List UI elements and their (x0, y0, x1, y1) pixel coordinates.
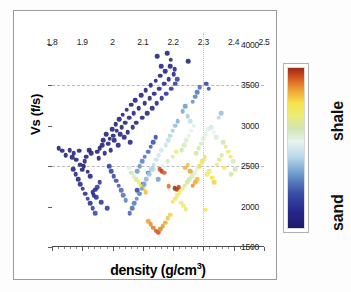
scatter-point (145, 111, 150, 116)
scatter-point (219, 111, 224, 116)
legend-label-shale: shale (329, 101, 347, 141)
scatter-point (214, 162, 219, 167)
scatter-point (89, 151, 94, 156)
scatter-point (82, 159, 87, 164)
scatter-point (207, 86, 212, 91)
scatter-point (217, 157, 222, 162)
scatter-point (127, 211, 132, 216)
scatter-point (152, 91, 157, 96)
scatter-point (108, 148, 113, 153)
scatter-point (101, 138, 106, 143)
scatter-point (144, 88, 149, 93)
x-tick-minor (216, 247, 217, 249)
scatter-point (155, 54, 160, 59)
x-tick-minor (107, 247, 108, 249)
scatter-point (96, 156, 101, 161)
scatter-point (136, 106, 141, 111)
y-tick (48, 166, 52, 167)
scatter-point (195, 177, 200, 182)
x-tick-minor (155, 247, 156, 249)
scatter-point (200, 159, 205, 164)
scatter-point (148, 83, 153, 88)
scatter-point (114, 178, 119, 183)
scatter-point (174, 149, 179, 154)
scatter-point (185, 162, 190, 167)
x-tick-label: 1.9 (77, 37, 88, 47)
scatter-point (202, 154, 207, 159)
x-axis-title: density (g/cm3) (52, 261, 264, 278)
scatter-point (84, 154, 89, 159)
scatter-point (166, 138, 171, 143)
x-tick (234, 247, 235, 251)
scatter-point (156, 177, 161, 182)
y-tick (48, 247, 52, 248)
scatter-point (100, 143, 105, 148)
scatter-point (159, 96, 164, 101)
scatter-point (117, 117, 122, 122)
x-tick-minor (88, 247, 89, 249)
colorbar-legend: shale sand (283, 63, 313, 233)
scatter-point (173, 82, 178, 87)
scatter-point (197, 164, 202, 169)
axes-region: 1.81.922.12.22.32.42.5 15002000250030003… (52, 33, 264, 247)
y-tick (48, 207, 52, 208)
scatter-point (124, 198, 129, 203)
scatter-point (184, 207, 189, 212)
figure-canvas: 1.81.922.12.22.32.42.5 15002000250030003… (0, 0, 351, 292)
scatter-point (207, 169, 212, 174)
x-tick-minor (167, 247, 168, 249)
x-tick (113, 247, 114, 251)
scatter-point (182, 143, 187, 148)
scatter-point (123, 120, 128, 125)
scatter-point (77, 149, 82, 154)
x-tick-minor (149, 247, 150, 249)
scatter-point (229, 172, 234, 177)
scatter-point (98, 180, 103, 185)
scatter-point (159, 64, 164, 69)
scatter-point (140, 115, 145, 120)
scatter-point (168, 133, 173, 138)
x-tick-minor (185, 247, 186, 249)
scatter-point (154, 101, 159, 106)
scatter-point (164, 91, 169, 96)
x-tick (264, 247, 265, 251)
x-tick-minor (64, 247, 65, 249)
scatter-point (186, 59, 191, 64)
scatter-point (153, 135, 158, 140)
scatter-point (196, 146, 201, 151)
scatter-point (72, 151, 77, 156)
scatter-point (214, 135, 219, 140)
scatter-point (88, 174, 93, 179)
scatter-point (113, 122, 118, 127)
scatter-point (122, 135, 127, 140)
colorbar-frame (283, 63, 309, 233)
scatter-point (188, 119, 193, 124)
x-tick-minor (76, 247, 77, 249)
x-axis-line (52, 246, 264, 247)
x-tick-label: 2.4 (228, 37, 239, 47)
scatter-point (104, 132, 109, 137)
x-tick-minor (125, 247, 126, 249)
x-tick-label: 2.5 (258, 37, 269, 47)
scatter-point (106, 141, 111, 146)
scatter-point (151, 140, 156, 145)
scatter-point (165, 51, 170, 56)
scatter-point (170, 154, 175, 159)
scatter-point (162, 170, 167, 175)
y-tick-label: 4000 (241, 40, 259, 50)
scatter-point (171, 72, 176, 77)
x-tick-minor (100, 247, 101, 249)
scatter-point (179, 148, 184, 153)
y-tick (48, 85, 52, 86)
scatter-point (172, 67, 177, 72)
scatter-point (63, 153, 68, 158)
scatter-point (144, 190, 149, 195)
x-tick (82, 247, 83, 251)
x-tick-minor (197, 247, 198, 249)
scatter-point (150, 106, 155, 111)
scatter-point (163, 220, 168, 225)
scatter-point (116, 143, 121, 148)
y-tick-label: 3500 (241, 80, 259, 90)
scatter-point (148, 145, 153, 150)
scatter-point (184, 138, 189, 143)
